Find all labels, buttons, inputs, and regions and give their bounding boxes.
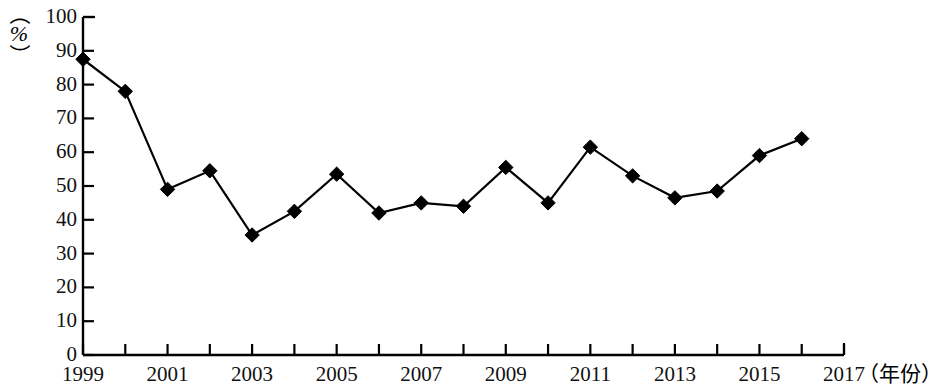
data-point-marker: [795, 131, 809, 145]
y-tick-label: 60: [56, 141, 77, 162]
series-polyline: [83, 59, 802, 235]
x-tick-label: 2013: [649, 364, 701, 385]
y-tick-label: 20: [56, 276, 77, 297]
data-point-markers: [76, 52, 809, 242]
y-tick-label: 50: [56, 175, 77, 196]
data-series-line: [83, 59, 802, 235]
y-tick-label: 40: [56, 209, 77, 230]
y-tick-label: 90: [56, 40, 77, 61]
data-point-marker: [414, 196, 428, 210]
x-tick-label: 2007: [395, 364, 447, 385]
data-point-marker: [245, 228, 259, 242]
data-point-marker: [668, 191, 682, 205]
data-point-marker: [203, 164, 217, 178]
y-tick-label: 80: [56, 74, 77, 95]
x-axis-unit-label: （年份）: [858, 364, 933, 385]
data-point-marker: [625, 169, 639, 183]
y-tick-label: 30: [56, 243, 77, 264]
axes: [83, 17, 844, 355]
x-tick-label: 2001: [142, 364, 194, 385]
x-tick-label: 2003: [226, 364, 278, 385]
x-tick-label: 2011: [564, 364, 616, 385]
x-tick-label: 2009: [480, 364, 532, 385]
x-axis-ticks: [83, 344, 844, 355]
y-tick-label: 100: [46, 6, 78, 27]
y-tick-label: 10: [56, 310, 77, 331]
x-tick-label: 2005: [311, 364, 363, 385]
y-tick-label: 70: [56, 107, 77, 128]
x-tick-label: 1999: [57, 364, 109, 385]
data-point-marker: [160, 182, 174, 196]
x-tick-label: 2015: [733, 364, 785, 385]
